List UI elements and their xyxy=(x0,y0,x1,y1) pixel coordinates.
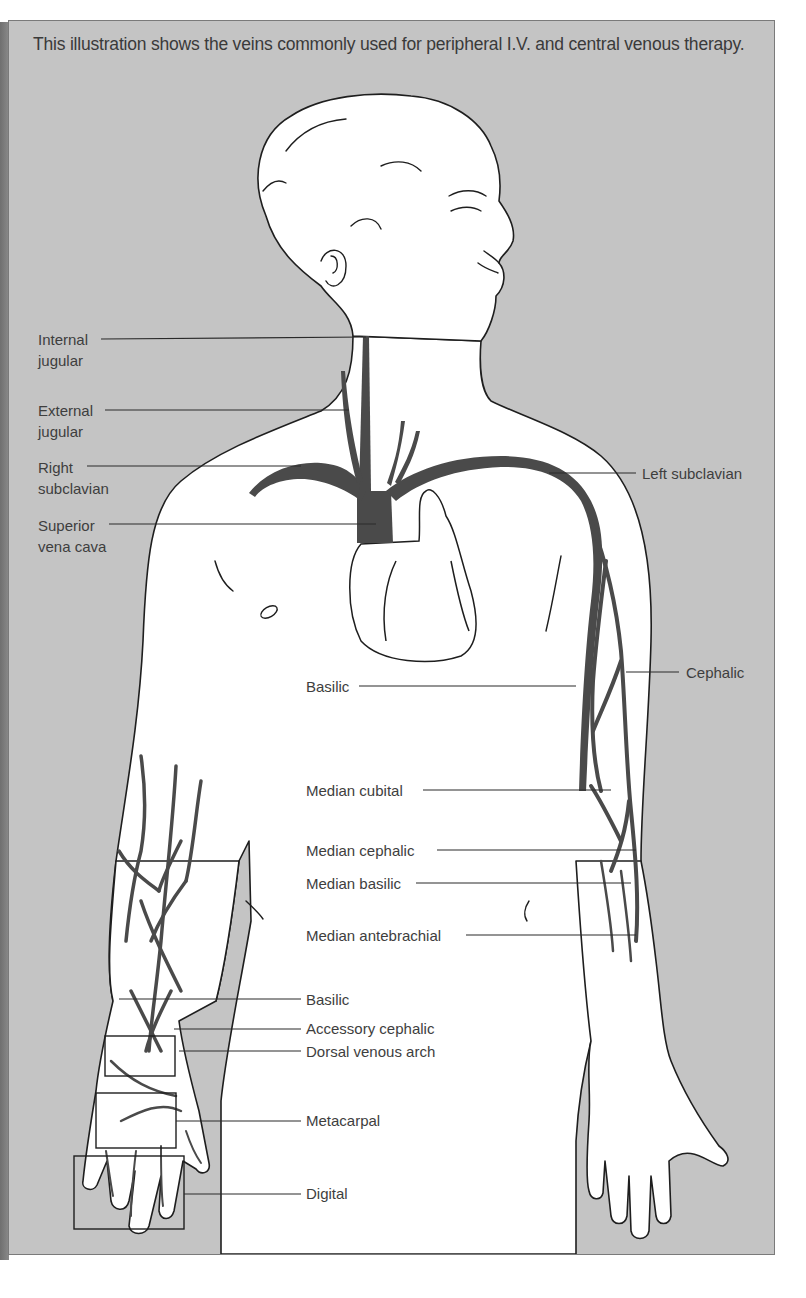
label-dorsal-venous-arch: Dorsal venous arch xyxy=(306,1041,435,1062)
label-line-2: jugular xyxy=(38,421,93,442)
label-median-cephalic: Median cephalic xyxy=(306,840,414,861)
label-line-1: Internal xyxy=(38,329,88,350)
label-line-2: subclavian xyxy=(38,478,109,499)
label-line-1: External xyxy=(38,400,93,421)
label-right-subclavian: Right subclavian xyxy=(38,457,109,499)
illustration-panel: This illustration shows the veins common… xyxy=(8,20,775,1255)
label-basilic-upper: Basilic xyxy=(306,676,349,697)
label-left-subclavian: Left subclavian xyxy=(642,463,742,484)
label-line-2: vena cava xyxy=(38,536,106,557)
label-external-jugular: External jugular xyxy=(38,400,93,442)
label-median-antebrachial: Median antebrachial xyxy=(306,925,441,946)
label-digital: Digital xyxy=(306,1183,348,1204)
label-line-2: jugular xyxy=(38,350,88,371)
label-line-1: Right xyxy=(38,457,109,478)
label-metacarpal: Metacarpal xyxy=(306,1110,380,1131)
label-cephalic: Cephalic xyxy=(686,662,744,683)
label-line-1: Superior xyxy=(38,515,106,536)
anatomy-illustration xyxy=(9,21,774,1254)
label-median-cubital: Median cubital xyxy=(306,780,403,801)
label-accessory-cephalic: Accessory cephalic xyxy=(306,1018,434,1039)
label-internal-jugular: Internal jugular xyxy=(38,329,88,371)
body-silhouette xyxy=(83,94,728,1254)
label-basilic-lower: Basilic xyxy=(306,989,349,1010)
label-median-basilic: Median basilic xyxy=(306,873,401,894)
label-superior-vena-cava: Superior vena cava xyxy=(38,515,106,557)
